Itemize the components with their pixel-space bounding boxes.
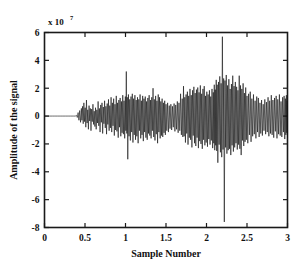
y-axis-title: Amplitude of the signal [8, 80, 19, 180]
x-axis-title: Sample Number [131, 248, 201, 259]
y-tick-label: 2 [35, 84, 40, 94]
y-axis-exponent-label: x 10 [48, 17, 64, 27]
x-tick-label: 2.5 [241, 233, 253, 243]
x-tick-label: 0 [42, 233, 47, 243]
figure-container: x 10 7 6420-2-4-6-8 00.511.522.53 Sample… [0, 0, 304, 271]
signal-plot: x 10 7 6420-2-4-6-8 00.511.522.53 Sample… [0, 0, 304, 271]
y-tick-label: 6 [35, 28, 40, 38]
x-tick-label: 1 [123, 233, 128, 243]
y-tick-label: -4 [32, 167, 40, 177]
x-tick-label: 0.5 [79, 233, 91, 243]
y-tick-label: -6 [32, 195, 40, 205]
y-tick-label: -8 [32, 223, 40, 233]
x-tick-label: 2 [204, 233, 209, 243]
x-tick-label: 3 [285, 233, 290, 243]
x-tick-label: 1.5 [160, 233, 172, 243]
y-tick-label: 0 [35, 111, 40, 121]
y-tick-label: 4 [35, 56, 40, 66]
y-tick-label: -2 [32, 139, 40, 149]
figure-background [0, 0, 304, 271]
